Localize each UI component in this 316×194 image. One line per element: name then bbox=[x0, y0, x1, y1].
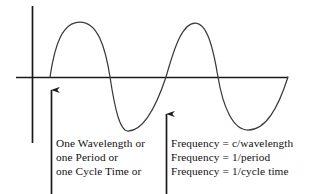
wavelength-label-line-1: One Wavelength or bbox=[56, 136, 145, 150]
wavelength-label-block: One Wavelength or one Period or one Cycl… bbox=[56, 136, 145, 179]
sine-wave-curve bbox=[50, 22, 288, 131]
frequency-label-line-1: Frequency = c/wavelength bbox=[171, 136, 293, 150]
frequency-label-block: Frequency = c/wavelength Frequency = 1/p… bbox=[171, 136, 293, 179]
frequency-label-line-2: Frequency = 1/period bbox=[171, 150, 293, 164]
wavelength-label-line-2: one Period or bbox=[56, 150, 145, 164]
frequency-label-line-3: Frequency = 1/cycle time bbox=[171, 164, 293, 178]
wave-diagram: One Wavelength or one Period or one Cycl… bbox=[0, 0, 316, 194]
wavelength-label-line-3: one Cycle Time or bbox=[56, 164, 145, 178]
